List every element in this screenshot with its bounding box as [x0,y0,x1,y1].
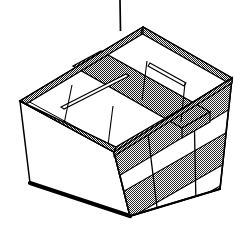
basket-illustration [0,0,240,230]
basket-group [20,0,238,230]
suspension-cable [120,0,121,31]
figure-stage: Suspended rectangular basket [0,0,240,230]
